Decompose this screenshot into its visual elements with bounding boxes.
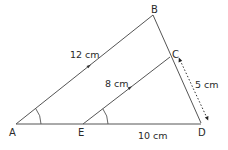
segment-bd <box>153 15 201 123</box>
vertex-label-a: A <box>9 127 16 138</box>
length-label-cd: 5 cm <box>195 79 219 90</box>
similar-triangles-diagram: B C A E D 12 cm 8 cm 5 cm 10 cm <box>0 0 228 150</box>
segment-ab <box>16 15 153 124</box>
angle-a-arc <box>36 108 41 124</box>
vertex-label-e: E <box>78 127 84 138</box>
vertex-label-b: B <box>151 4 158 15</box>
angle-e-arc <box>103 109 108 124</box>
vertex-label-d: D <box>198 127 206 138</box>
arrowhead-down-icon <box>205 116 209 121</box>
arrowhead-up-icon <box>179 58 183 63</box>
length-label-ab: 12 cm <box>70 49 100 60</box>
length-label-ec: 8 cm <box>105 78 129 89</box>
vertex-label-c: C <box>172 49 179 60</box>
length-label-ed: 10 cm <box>138 130 168 141</box>
segment-ec <box>83 57 170 124</box>
